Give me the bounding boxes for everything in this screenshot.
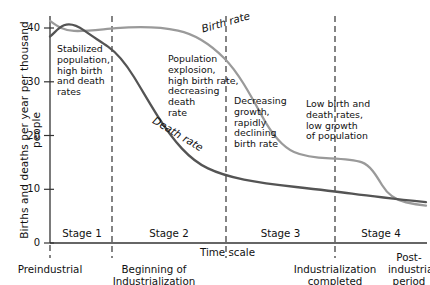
annotation-stage3: Decreasing growth, rapidly declining bir…: [234, 96, 296, 150]
xcat-completed-line-1: Industrialization: [272, 263, 398, 275]
annotation-stage1: Stabilized population, high birth and de…: [57, 44, 113, 98]
stage-label-2: Stage 2: [112, 227, 226, 239]
xcat-preindustrial: Preindustrial: [8, 263, 92, 275]
annotation-stage3-line-5: birth rate: [234, 139, 296, 150]
stage-label-3: Stage 3: [226, 227, 335, 239]
stage-label-4: Stage 4: [335, 227, 427, 239]
annotation-stage4: Low birth and death rates, low growth of…: [306, 99, 382, 142]
annotation-stage1-line-5: rates: [57, 87, 113, 98]
xcat-post-line-3: period: [388, 275, 430, 285]
annotation-stage4-line-2: death rates,: [306, 110, 382, 121]
annotation-stage1-line-2: population,: [57, 55, 113, 66]
y-tick-label-0: 0: [18, 237, 40, 248]
y-tick-label-40: 40: [18, 22, 40, 33]
y-tick-label-30: 30: [18, 76, 40, 87]
xcat-beginning-line-1: Beginning of: [95, 263, 213, 275]
xcat-beginning-industrialization: Beginning of Industrialization: [95, 263, 213, 285]
y-tick-label-20: 20: [18, 130, 40, 141]
demographic-transition-chart: Births and deaths per year per thousand …: [0, 0, 430, 285]
xcat-industrialization-completed: Industrialization completed: [272, 263, 398, 285]
xcat-post-industrial-period: Post- industrial period: [388, 251, 430, 285]
xcat-post-line-2: industrial: [388, 263, 430, 275]
annotation-stage4-line-4: of population: [306, 131, 382, 142]
xcat-beginning-line-2: Industrialization: [95, 275, 213, 285]
x-axis-title: Time scale: [200, 246, 255, 258]
stage-label-1: Stage 1: [52, 227, 112, 239]
annotation-stage2-line-2: explosion,: [168, 65, 248, 76]
y-tick-label-10: 10: [18, 183, 40, 194]
annotation-stage3-line-2: growth,: [234, 107, 296, 118]
xcat-post-line-1: Post-: [388, 251, 430, 263]
xcat-completed-line-2: completed: [272, 275, 398, 285]
